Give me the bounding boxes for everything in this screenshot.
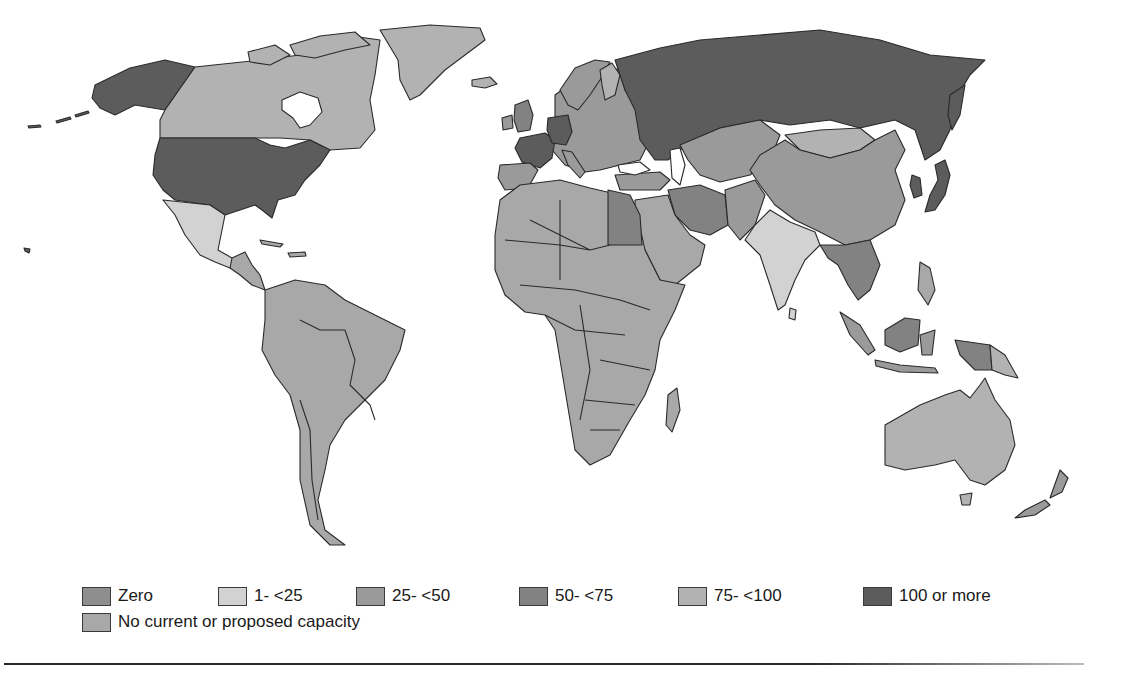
legend-item-25-50: 25- <50 <box>356 586 519 606</box>
region-australia <box>885 378 1015 485</box>
region-new-zealand <box>1015 470 1068 518</box>
region-france <box>515 133 555 168</box>
region-greenland <box>380 25 485 100</box>
swatch-no-capacity <box>82 613 111 632</box>
region-korea <box>910 175 922 198</box>
region-new-guinea-west <box>955 340 992 370</box>
region-egypt <box>608 190 642 245</box>
region-southeast-asia <box>820 240 880 300</box>
legend-item-no-capacity: No current or proposed capacity <box>82 612 360 632</box>
legend-item-100-plus: 100 or more <box>863 586 991 606</box>
legend-item-50-75: 50- <75 <box>519 586 678 606</box>
caspian-sea <box>670 148 685 185</box>
world-map <box>0 0 1123 560</box>
region-sumatra <box>840 312 875 355</box>
swatch-100-plus <box>863 587 892 606</box>
region-borneo <box>885 318 920 352</box>
region-papua-new-guinea <box>990 345 1018 378</box>
legend-label-50-75: 50- <75 <box>555 586 613 606</box>
bottom-rule-divider <box>4 663 1084 665</box>
legend-label-no-capacity: No current or proposed capacity <box>118 612 360 632</box>
region-tasmania <box>960 493 972 505</box>
legend-label-zero: Zero <box>118 586 153 606</box>
region-turkey <box>615 172 670 190</box>
legend-row-1: Zero 1- <25 25- <50 50- <75 75- <100 100… <box>82 583 1042 609</box>
region-central-america <box>230 252 265 290</box>
region-ireland <box>502 115 513 130</box>
region-caribbean <box>260 240 306 257</box>
swatch-zero <box>82 587 111 606</box>
region-philippines <box>918 262 935 305</box>
region-uk <box>514 100 533 132</box>
region-java <box>875 360 938 373</box>
legend-item-zero: Zero <box>82 586 218 606</box>
swatch-25-50 <box>356 587 385 606</box>
region-iceland <box>472 77 497 88</box>
region-sri-lanka <box>789 308 796 320</box>
swatch-1-25 <box>218 587 247 606</box>
legend-item-1-25: 1- <25 <box>218 586 356 606</box>
legend-item-75-100: 75- <100 <box>678 586 863 606</box>
swatch-75-100 <box>678 587 707 606</box>
legend-row-2: No current or proposed capacity <box>82 609 1042 635</box>
region-japan <box>925 160 950 212</box>
swatch-50-75 <box>519 587 548 606</box>
legend-label-75-100: 75- <100 <box>714 586 782 606</box>
legend-label-1-25: 1- <25 <box>254 586 303 606</box>
legend-label-25-50: 25- <50 <box>392 586 450 606</box>
region-madagascar <box>666 388 680 432</box>
region-sulawesi <box>920 330 935 355</box>
region-south-america <box>262 280 405 545</box>
aleutian-islands <box>28 111 89 128</box>
legend-label-100-plus: 100 or more <box>899 586 991 606</box>
region-hawaii <box>24 248 30 253</box>
map-legend: Zero 1- <25 25- <50 50- <75 75- <100 100… <box>82 583 1042 635</box>
region-germany <box>547 115 572 145</box>
